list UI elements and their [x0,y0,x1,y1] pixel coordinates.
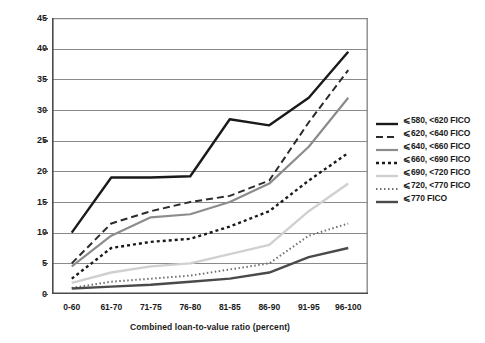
legend-swatch-line-icon [376,167,398,177]
y-tick-mark [43,202,48,203]
y-tick-mark [43,79,48,80]
legend-swatch-line-icon [376,193,398,203]
y-tick-mark [43,171,48,172]
legend-swatch-line-icon [376,180,398,190]
y-tick-label: 0 [7,290,47,299]
legend-item[interactable]: ⩽770 FICO [376,191,484,204]
x-tick-label: 71-75 [140,303,162,312]
y-axis-tick-labels: 051015202530354045 [0,0,47,343]
y-tick-mark [43,140,48,141]
legend-swatch-line-icon [376,128,398,138]
x-tick-label: 86-90 [258,303,280,312]
y-tick-mark [43,18,48,19]
y-tick-mark [43,294,48,295]
legend-label: ⩽640, <660 FICO [403,141,470,151]
x-tick-label: 76-80 [179,303,201,312]
default-rate-line-chart: Default rate (percent) 05101520253035404… [0,0,485,343]
y-tick-label: 40 [7,44,47,53]
legend-label: ⩽690, <720 FICO [403,167,470,177]
x-tick-label: 81-85 [219,303,241,312]
legend-label: ⩽580, <620 FICO [403,115,470,125]
y-tick-label: 25 [7,136,47,145]
legend-swatch-line-icon [376,154,398,164]
y-tick-mark [43,263,48,264]
series-line-6 [72,248,349,288]
y-tick-label: 15 [7,198,47,207]
y-tick-label: 5 [7,259,47,268]
legend-item[interactable]: ⩽580, <620 FICO [376,113,484,126]
y-tick-mark [43,48,48,49]
y-tick-label: 10 [7,228,47,237]
legend-label: ⩽620, <640 FICO [403,128,470,138]
x-tick-label: 91-95 [298,303,320,312]
x-tick-label: 96-100 [335,303,361,312]
plot-svg [52,18,368,294]
legend-swatch-line-icon [376,141,398,151]
legend-item[interactable]: ⩽690, <720 FICO [376,165,484,178]
plot-area [52,18,368,294]
legend-item[interactable]: ⩽660, <690 FICO [376,152,484,165]
y-tick-label: 20 [7,167,47,176]
x-tick-label: 0-60 [63,303,80,312]
legend-label: ⩽720, <770 FICO [403,180,470,190]
y-tick-label: 30 [7,106,47,115]
y-tick-label: 45 [7,14,47,23]
y-tick-mark [43,232,48,233]
y-tick-label: 35 [7,75,47,84]
x-tick-label: 61-70 [100,303,122,312]
legend-label: ⩽660, <690 FICO [403,154,470,164]
legend-item[interactable]: ⩽720, <770 FICO [376,178,484,191]
y-tick-mark [43,110,48,111]
legend-label: ⩽770 FICO [403,193,447,203]
x-axis-title: Combined loan-to-value ratio (percent) [52,322,368,332]
legend-item[interactable]: ⩽640, <660 FICO [376,139,484,152]
legend-swatch-line-icon [376,115,398,125]
legend-item[interactable]: ⩽620, <640 FICO [376,126,484,139]
legend: ⩽580, <620 FICO⩽620, <640 FICO⩽640, <660… [376,113,484,204]
series-line-0 [72,52,349,233]
